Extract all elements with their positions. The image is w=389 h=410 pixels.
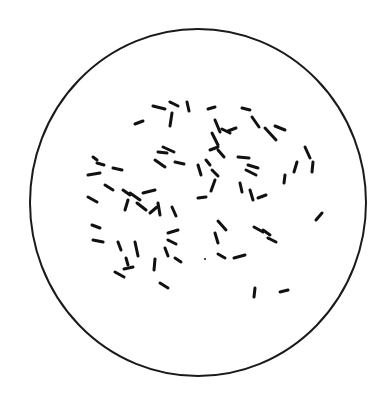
rod <box>150 207 157 213</box>
rod <box>105 185 113 190</box>
rod <box>212 133 218 145</box>
rod <box>198 197 206 198</box>
rod <box>124 267 133 269</box>
rod <box>168 240 176 244</box>
rod <box>118 242 121 250</box>
rod <box>218 150 224 157</box>
rod <box>263 230 270 235</box>
rod <box>153 106 165 109</box>
rod <box>242 108 250 110</box>
rod <box>250 190 253 200</box>
rod <box>268 238 276 242</box>
rod <box>154 259 155 270</box>
rod <box>92 225 100 228</box>
rod <box>294 162 297 172</box>
rod <box>168 230 178 233</box>
rod <box>88 197 97 202</box>
rod <box>137 203 146 210</box>
rod <box>93 157 97 160</box>
rod <box>126 258 128 265</box>
rod <box>228 128 236 131</box>
rod <box>211 180 215 191</box>
rod <box>88 173 100 175</box>
rod <box>246 170 256 175</box>
rod <box>130 193 140 200</box>
rod <box>135 121 143 124</box>
rod <box>218 221 226 230</box>
microscope-field-diagram <box>0 0 389 410</box>
rod <box>252 117 259 127</box>
rod <box>258 195 266 198</box>
rod <box>97 163 104 165</box>
rod <box>187 102 189 111</box>
rod <box>158 152 167 153</box>
rod <box>113 168 122 170</box>
rod <box>208 107 215 109</box>
rod <box>170 102 178 106</box>
rod <box>170 113 172 126</box>
rod <box>212 170 218 176</box>
rod <box>160 283 168 288</box>
rod <box>312 162 313 172</box>
rod <box>284 175 285 183</box>
diagram-canvas <box>0 0 389 410</box>
rod <box>234 255 245 258</box>
rod <box>135 242 138 256</box>
rod <box>215 233 218 243</box>
rod <box>265 128 276 140</box>
rod <box>240 183 242 192</box>
rod <box>305 147 310 158</box>
rod <box>172 207 176 216</box>
rod <box>175 162 184 164</box>
rod <box>248 165 258 168</box>
rod <box>155 160 165 167</box>
rod <box>206 160 210 165</box>
rod <box>125 200 128 210</box>
rod <box>316 213 322 220</box>
rod <box>93 240 103 242</box>
rod <box>238 157 249 158</box>
rod-shaped-objects <box>88 102 322 297</box>
rod <box>115 272 124 277</box>
rod <box>165 248 168 256</box>
rod <box>143 190 155 193</box>
rod <box>280 290 288 292</box>
rod <box>215 120 220 132</box>
rod <box>275 126 285 130</box>
rod <box>198 165 201 175</box>
rod <box>158 203 160 215</box>
rod <box>254 288 255 297</box>
rod <box>175 258 181 262</box>
field-of-view-circle <box>30 29 366 376</box>
dot <box>204 258 206 260</box>
rod <box>218 254 225 258</box>
